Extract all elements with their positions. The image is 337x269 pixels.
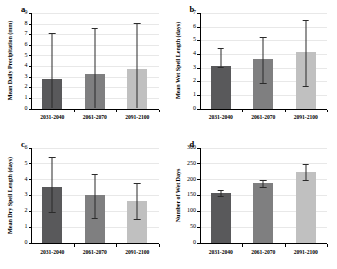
y-tick-label: 5: [25, 52, 28, 59]
y-axis-line: [200, 148, 201, 245]
y-tick-label: 1: [25, 94, 28, 101]
x-tick-label: 2031-2040: [40, 114, 64, 120]
y-axis-label-b: Mean Wet Spell Length (days): [174, 13, 181, 110]
error-bar: [137, 23, 138, 108]
x-tick-label: 2091-2100: [294, 114, 318, 120]
x-tick-label: 2061-2070: [83, 249, 107, 255]
gridline: [201, 40, 328, 41]
y-tick-label: 150: [187, 191, 196, 198]
x-tick-mark: [327, 110, 328, 113]
error-bar-cap: [302, 180, 309, 181]
x-tick-label: 2031-2040: [209, 249, 233, 255]
x-tick-label: 2091-2100: [294, 249, 318, 255]
y-tick-label: 5: [193, 36, 196, 43]
x-tick-mark: [327, 244, 328, 247]
error-bar: [305, 20, 306, 86]
panel-d: dNumber of Wet Days050100150200250300203…: [169, 135, 337, 269]
x-tick-label: 2061-2070: [83, 114, 107, 120]
y-tick-label: 1: [25, 223, 28, 230]
y-tick-label: 4: [25, 62, 28, 69]
x-tick-label: 2091-2100: [125, 249, 149, 255]
y-tick-label: 0: [25, 105, 28, 112]
error-bar: [305, 164, 306, 181]
panel-b: bMean Wet Spell Length (days)01234567203…: [169, 0, 337, 135]
x-axis-line: [31, 243, 159, 244]
plot-area-c: 01234562031-20402061-20702091-2100: [31, 148, 159, 245]
error-bar-cap: [134, 183, 141, 184]
error-bar: [94, 174, 95, 219]
gridline: [32, 148, 159, 149]
y-tick-label: 3: [25, 191, 28, 198]
y-tick-label: 50: [190, 223, 196, 230]
error-bar-cap: [260, 187, 267, 188]
x-axis-line: [200, 243, 328, 244]
bar: [211, 193, 231, 243]
error-bar: [94, 28, 95, 108]
y-axis-line: [31, 13, 32, 110]
panel-letter-a: a: [21, 4, 25, 14]
y-tick-label: 100: [187, 207, 196, 214]
x-tick-mark: [242, 110, 243, 113]
y-tick-label: 1: [193, 91, 196, 98]
panel-letter-d: d: [190, 139, 195, 149]
gridline: [201, 13, 328, 14]
gridline: [201, 148, 328, 149]
gridline: [201, 27, 328, 28]
panel-c: cMean Dry Spell Length (days)01234562031…: [0, 135, 169, 269]
error-bar-cap: [217, 190, 224, 191]
error-bar-cap: [302, 86, 309, 87]
plot-area-d: 0501001502002503002031-20402061-20702091…: [200, 148, 328, 245]
y-tick-label: 2: [193, 77, 196, 84]
x-tick-mark: [74, 244, 75, 247]
y-tick-label: 200: [187, 176, 196, 183]
error-bar: [220, 48, 221, 66]
plot-area-b: 012345672031-20402061-20702091-2100: [200, 13, 328, 110]
x-axis-line: [31, 109, 159, 110]
error-bar-cap: [91, 218, 98, 219]
x-tick-mark: [285, 110, 286, 113]
x-axis-line: [200, 109, 328, 110]
error-bar-cap: [49, 212, 56, 213]
panel-letter-c: c: [21, 139, 25, 149]
y-tick-label: 0: [193, 105, 196, 112]
error-bar: [137, 183, 138, 220]
y-axis-label-d: Number of Wet Days: [174, 147, 181, 244]
y-axis-line: [200, 13, 201, 110]
x-tick-label: 2031-2040: [209, 114, 233, 120]
error-bar-cap: [260, 180, 267, 181]
error-bar-cap: [302, 164, 309, 165]
y-tick-label: 250: [187, 160, 196, 167]
gridline: [32, 24, 159, 25]
y-axis-line: [31, 148, 32, 245]
y-tick-label: 4: [193, 50, 196, 57]
bar: [296, 172, 316, 243]
y-tick-label: 5: [25, 160, 28, 167]
y-tick-label: 8: [25, 20, 28, 27]
x-tick-label: 2061-2070: [251, 249, 275, 255]
error-bar-cap: [91, 174, 98, 175]
panel-a: aMean Daily Precipitation (mm)0123456789…: [0, 0, 169, 135]
bar: [211, 66, 231, 108]
panel-letter-b: b: [190, 4, 195, 14]
y-axis-label-a: Mean Daily Precipitation (mm): [6, 13, 13, 110]
error-bar-cap: [260, 83, 267, 84]
y-tick-label: 0: [193, 239, 196, 246]
x-tick-mark: [116, 244, 117, 247]
y-tick-label: 4: [25, 176, 28, 183]
error-bar: [52, 33, 53, 108]
error-bar-cap: [217, 196, 224, 197]
error-bar-cap: [134, 219, 141, 220]
x-tick-label: 2061-2070: [251, 114, 275, 120]
x-tick-label: 2031-2040: [40, 249, 64, 255]
error-bar: [52, 157, 53, 212]
x-tick-label: 2091-2100: [125, 114, 149, 120]
y-tick-label: 2: [25, 207, 28, 214]
x-tick-mark: [159, 244, 160, 247]
bar: [253, 183, 273, 243]
y-tick-label: 0: [25, 239, 28, 246]
y-tick-label: 7: [25, 30, 28, 37]
y-axis-label-c: Mean Dry Spell Length (days): [6, 147, 13, 244]
error-bar-cap: [260, 37, 267, 38]
y-tick-label: 6: [193, 23, 196, 30]
y-tick-label: 6: [25, 41, 28, 48]
